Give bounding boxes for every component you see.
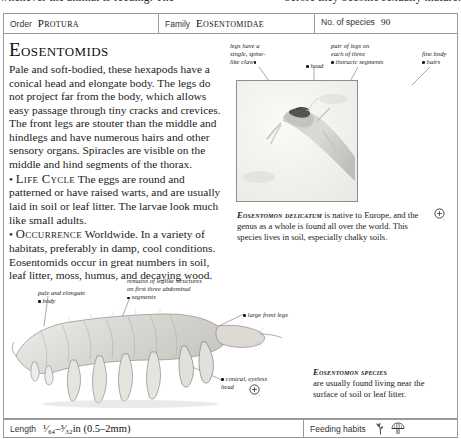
running-text-right: before they become sexually mature. (284, 0, 461, 3)
photo-image (237, 81, 357, 201)
life-cycle-heading: Life Cycle (16, 172, 75, 186)
header-field-order: Order Protura (4, 14, 159, 33)
callout-pale-body: pale and elongatebody (38, 289, 85, 305)
taxonomy-header: Order Protura Family Eosentomidae No. of… (3, 13, 458, 34)
photo-callouts: legs have asingle, spine-like claw head … (228, 40, 458, 85)
callout-large-front-legs: large front legs (243, 311, 288, 319)
species-count-label: No. of species (321, 17, 375, 27)
occurrence-heading: Occurrence (16, 227, 82, 241)
footer-feeding-habits: Feeding habits (304, 420, 457, 437)
callout-thoracic-legs: pair of legs oneach of threethoracic seg… (331, 42, 383, 66)
header-field-species-count: No. of species 90 (315, 14, 457, 33)
magnifier-plus-icon (432, 207, 450, 225)
section-life-cycle: • Life Cycle The eggs are round and patt… (9, 172, 227, 228)
callout-leglike-remains: remains of leglike structureson first th… (127, 277, 202, 302)
article-text-column: Eosentomids Pale and soft-bodied, these … (9, 40, 227, 283)
feeding-habits-label: Feeding habits (310, 424, 366, 434)
page-title: Eosentomids (9, 40, 227, 59)
proturan-photograph (236, 80, 358, 202)
header-field-family: Family Eosentomidae (159, 14, 315, 33)
life-cycle-bullet: • (9, 173, 13, 185)
magnifier-plus-icon (247, 383, 265, 401)
order-value: Protura (38, 17, 79, 29)
plant-sprig-icon (375, 422, 386, 435)
photo-caption-species: Eosentomon delicatum (237, 210, 322, 220)
cut-running-text: whenever the animal is feeding. The befo… (0, 0, 461, 13)
illustration-caption-text: are usually found living near the surfac… (313, 378, 424, 399)
length-label: Length (10, 424, 36, 434)
callout-claw: legs have asingle, spine-like claw (230, 42, 265, 66)
illustration-caption-species: Eosentomon species (313, 367, 387, 377)
intro-paragraph: Pale and soft-bodied, these hexapods hav… (9, 63, 227, 172)
callout-body-hairs: fine bodyhairs (422, 50, 446, 66)
illustration-caption: Eosentomon species are usually found liv… (313, 367, 448, 401)
photo-caption: Eosentomon delicatum is native to Europe… (237, 210, 425, 244)
footer-length: Length ¹⁄₆₄–³⁄₃₂in (0.5–2mm) (4, 420, 304, 437)
fungus-mushroom-icon (391, 422, 405, 435)
family-label: Family (165, 19, 190, 29)
running-text-left: whenever the animal is feeding. The (0, 0, 174, 3)
feeding-habit-icon-group (375, 422, 405, 435)
section-occurrence: • Occurrence Worldwide. In a variety of … (9, 227, 227, 283)
order-label: Order (10, 19, 32, 29)
length-value: ¹⁄₆₄–³⁄₃₂in (0.5–2mm) (43, 423, 130, 434)
occurrence-bullet: • (9, 228, 13, 240)
species-count-value: 90 (381, 17, 391, 27)
callout-head: head (306, 62, 323, 70)
footer-bar: Length ¹⁄₆₄–³⁄₃₂in (0.5–2mm) Feeding hab… (3, 419, 458, 438)
field-guide-page: whenever the animal is feeding. The befo… (0, 0, 461, 439)
family-value: Eosentomidae (196, 17, 264, 29)
